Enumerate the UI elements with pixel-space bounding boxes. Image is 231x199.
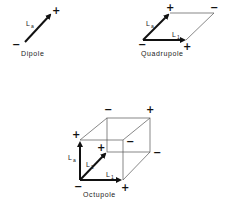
octupole-edge [80, 118, 107, 140]
quadrupole-sign-top-left: + [166, 2, 174, 13]
octupole-vector-2-subscript: 2 [91, 164, 94, 170]
dipole-minus-sign: − [12, 39, 20, 50]
octupole-sign-front-top-left: + [72, 129, 80, 140]
octupole-sign-back-bottom-right: − [153, 147, 161, 158]
octupole-sign-back-top-right: + [146, 104, 154, 115]
octupole-sign-front-bottom-right: + [121, 182, 129, 193]
octupole-sign-front-bottom-left: − [74, 181, 82, 192]
quadrupole-vector-1-label: L [172, 31, 176, 38]
quadrupole-sign-bottom-left: − [138, 39, 146, 50]
quadrupole-caption: Quadrupole [141, 50, 184, 58]
octupole-vector-2-label: L [86, 161, 90, 168]
dipole-vector-subscript: a [31, 23, 34, 29]
octupole-sign-front-top-right: − [126, 136, 134, 147]
octupole-vector-1-label: L [106, 171, 110, 178]
quadrupole-vector-a-label: L [146, 20, 150, 27]
octupole-sign-back-bottom-left: + [97, 142, 105, 153]
octupole-vector-a-subscript: a [73, 157, 76, 163]
dipole-caption: Dipole [21, 50, 44, 58]
octupole-caption: Octupole [83, 191, 116, 199]
quadrupole-figure: + − − + L a L 1 Quadrupole [138, 2, 218, 58]
dipole-plus-sign: + [52, 5, 60, 16]
octupole-figure: − + − − + + − + L a L 2 L 1 Octupole [68, 104, 161, 199]
quadrupole-vector-1-subscript: 1 [177, 34, 180, 40]
multipole-diagram: + − L a Dipole + − − + L a L 1 Quadrupol… [0, 0, 231, 199]
dipole-vector-label: L [26, 20, 30, 27]
quadrupole-vector-a-subscript: a [151, 23, 154, 29]
octupole-vector-1-subscript: 1 [111, 174, 114, 180]
octupole-sign-back-top-left: − [104, 104, 112, 115]
octupole-vector-a-label: L [68, 154, 72, 161]
quadrupole-vector-a-arrow [143, 15, 168, 40]
dipole-figure: + − L a Dipole [12, 5, 60, 58]
quadrupole-sign-top-right: − [210, 2, 218, 13]
octupole-edge [123, 152, 150, 180]
quadrupole-sign-bottom-right: + [183, 41, 191, 52]
